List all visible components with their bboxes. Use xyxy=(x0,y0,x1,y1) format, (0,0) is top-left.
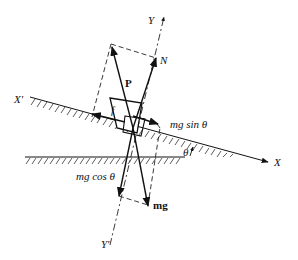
angle-arrow xyxy=(190,147,193,156)
x-axis-label: X xyxy=(273,156,282,168)
applied-force-label: P xyxy=(125,77,132,89)
mg-cos-arrow xyxy=(119,128,133,196)
y-axis-label: Y xyxy=(148,14,156,26)
weight-label: mg xyxy=(153,199,168,211)
incline-surface xyxy=(30,97,268,162)
normal-force-label: N xyxy=(159,54,168,66)
y-neg-axis-label: Y' xyxy=(101,238,110,250)
ground-surface xyxy=(25,157,185,164)
weight-arrow xyxy=(133,128,148,206)
x-neg-axis-label: X' xyxy=(13,93,24,105)
block xyxy=(110,98,145,136)
inclined-plane-diagram: Y Y' X X' P N f mg sin θ mg cos θ mg θ xyxy=(0,0,298,260)
mg-cos-label: mg cos θ xyxy=(76,170,116,182)
mg-sin-label: mg sin θ xyxy=(170,118,208,130)
angle-label: θ xyxy=(183,146,189,158)
